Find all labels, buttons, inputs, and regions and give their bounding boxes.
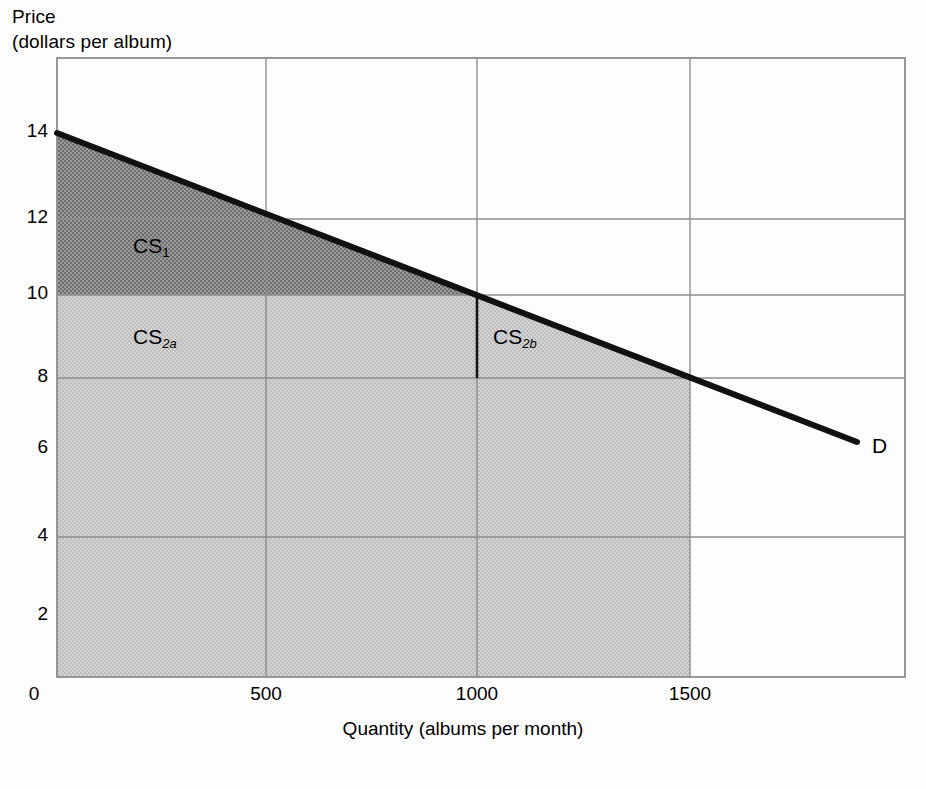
- y-tick-label-12: 12: [8, 206, 48, 228]
- y-tick-label-10: 10: [8, 282, 48, 304]
- region-label-cs1-text: CS: [133, 234, 162, 257]
- region-label-cs1-subscript: 1: [162, 245, 169, 260]
- shaded-region-cs2a: [57, 295, 477, 378]
- x-tick-label-0: 0: [0, 683, 74, 705]
- demand-curve-label: D: [872, 434, 887, 458]
- y-tick-label-2: 2: [8, 603, 48, 625]
- region-label-cs2b-text: CS: [493, 325, 522, 348]
- y-tick-label-14: 14: [8, 120, 48, 142]
- x-tick-label-1000: 1000: [437, 683, 517, 705]
- region-label-cs2a-text: CS: [133, 325, 162, 348]
- x-tick-label-500: 500: [226, 683, 306, 705]
- y-tick-label-6: 6: [8, 436, 48, 458]
- region-label-cs1: CS1: [133, 234, 169, 258]
- y-tick-label-8: 8: [8, 365, 48, 387]
- economics-figure: Price (dollars per album): [0, 0, 926, 789]
- region-label-cs2a: CS2a: [133, 325, 177, 349]
- region-label-cs2b-subscript: 2b: [522, 336, 536, 351]
- x-axis-title: Quantity (albums per month): [0, 718, 926, 740]
- y-tick-label-4: 4: [8, 524, 48, 546]
- region-label-cs2b: CS2b: [493, 325, 537, 349]
- page-bottom-edge: [0, 780, 926, 789]
- shaded-region-total-expenditure: [57, 378, 690, 677]
- region-label-cs2a-subscript: 2a: [162, 336, 176, 351]
- plot-area: [0, 0, 926, 789]
- x-tick-label-1500: 1500: [650, 683, 730, 705]
